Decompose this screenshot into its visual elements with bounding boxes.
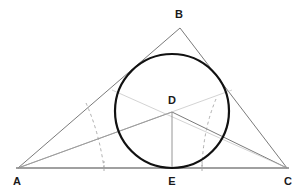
- triangle-side-ab: [18, 28, 180, 168]
- vertex-label-d: D: [168, 95, 176, 106]
- vertex-label-e: E: [168, 176, 175, 187]
- triangle-side-bc: [180, 28, 287, 168]
- construction-arc-left-icon: [86, 103, 104, 168]
- geometry-canvas: [0, 0, 303, 192]
- geometry-figure: A B C D E: [0, 0, 303, 192]
- vertex-label-b: B: [175, 9, 183, 20]
- vertex-label-a: A: [13, 176, 21, 187]
- angle-bisector-from-c: [172, 112, 287, 168]
- vertex-label-c: C: [284, 176, 292, 187]
